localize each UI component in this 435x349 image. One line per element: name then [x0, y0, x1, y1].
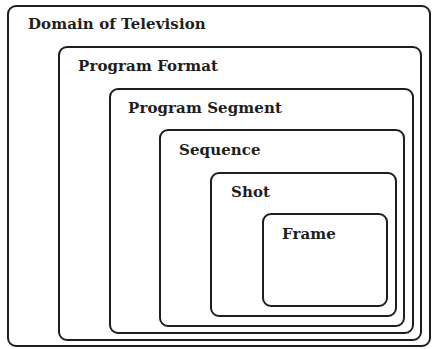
label-frame: Frame: [282, 225, 336, 243]
label-sequence: Sequence: [179, 141, 261, 159]
label-program-segment: Program Segment: [128, 99, 282, 117]
label-shot: Shot: [231, 183, 270, 201]
label-domain-of-television: Domain of Television: [28, 15, 206, 33]
label-program-format: Program Format: [78, 57, 218, 75]
